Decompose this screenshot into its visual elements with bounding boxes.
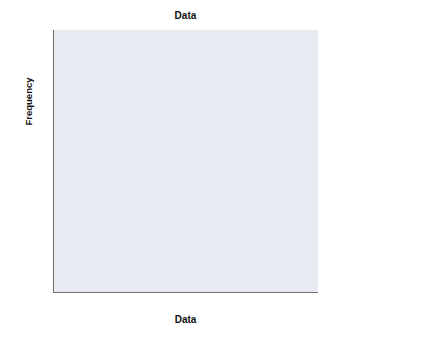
x-axis-label: Data: [53, 314, 318, 325]
histogram-figure: Data Frequency Data: [0, 0, 427, 342]
y-axis-label: Frequency: [23, 42, 34, 162]
bars-container: [54, 30, 318, 292]
chart-title: Data: [53, 10, 318, 21]
plot-area: [53, 30, 318, 293]
